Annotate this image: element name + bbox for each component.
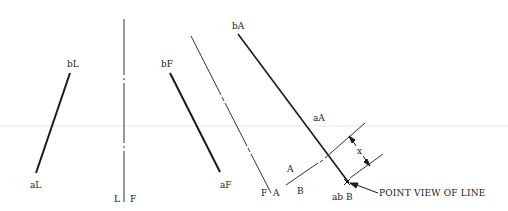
label-bA: bA <box>232 22 244 31</box>
dimension-extension-line <box>350 154 383 178</box>
line-left-view <box>36 73 70 173</box>
diagram-lines <box>0 0 508 211</box>
label-aL: aL <box>30 181 41 190</box>
callout-point-view: POINT VIEW OF LINE <box>379 189 486 198</box>
diagram-canvas: bL aL L F bF aF F A bA aA A B ab B x POI… <box>0 0 508 211</box>
fold-label-F: F <box>130 195 136 204</box>
callout-arrowhead <box>350 183 358 188</box>
label-aA: aA <box>313 114 325 123</box>
label-abB: ab B <box>332 193 353 202</box>
line-front-view <box>170 73 220 172</box>
callout-leader <box>350 183 378 193</box>
label-aF: aF <box>220 181 232 190</box>
fold-label-L: L <box>114 195 120 204</box>
arrowhead-up <box>349 136 355 143</box>
fold-label-A: A <box>273 189 280 198</box>
label-bF: bF <box>161 60 173 69</box>
label-bL: bL <box>67 60 79 69</box>
arrowhead-down <box>364 159 370 166</box>
fold-line-FA <box>191 36 271 193</box>
fold-label-B: B <box>297 187 304 196</box>
label-x: x <box>357 147 362 156</box>
fold-label-F2: F <box>261 189 267 198</box>
fold-label-A2: A <box>287 165 294 174</box>
